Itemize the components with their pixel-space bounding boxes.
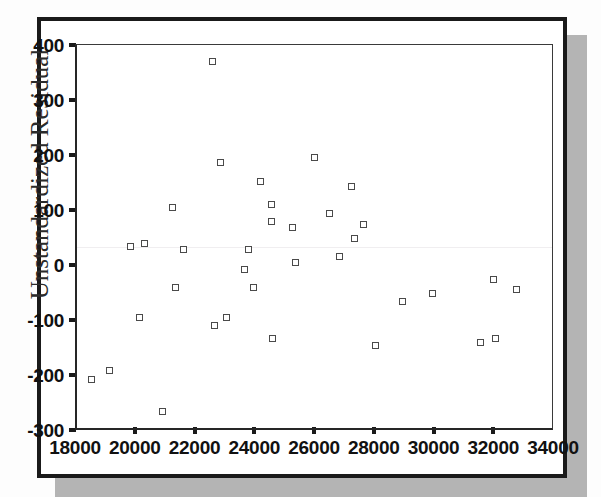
scatter-point xyxy=(88,376,95,383)
scatter-point xyxy=(209,58,216,65)
scatter-point xyxy=(257,178,264,185)
scatter-point xyxy=(326,210,333,217)
scatter-point xyxy=(513,286,520,293)
scatter-point xyxy=(245,246,252,253)
scatter-point xyxy=(223,314,230,321)
scatter-point xyxy=(211,322,218,329)
scatter-point xyxy=(372,342,379,349)
x-axis-tick-label: 34000 xyxy=(508,438,598,457)
scatter-point xyxy=(311,154,318,161)
scatter-plot-area xyxy=(77,45,552,428)
scatter-point xyxy=(217,159,224,166)
y-axis-tick-label: -200 xyxy=(8,366,64,385)
scatter-point xyxy=(289,224,296,231)
scatter-point xyxy=(490,276,497,283)
y-axis-tick-label: 400 xyxy=(8,36,64,55)
scatter-point xyxy=(492,335,499,342)
scatter-point xyxy=(292,259,299,266)
y-axis-title: Unstandardized Residual xyxy=(26,24,54,324)
scatter-point xyxy=(268,218,275,225)
scatter-point xyxy=(172,284,179,291)
scatter-point xyxy=(159,408,166,415)
plot-area-frame xyxy=(75,44,553,430)
figure-canvas: Unstandardized Residual 4003002001000-10… xyxy=(0,0,601,497)
scatter-point xyxy=(351,235,358,242)
y-axis-tick-label: 200 xyxy=(8,146,64,165)
figure-shadow-bottom xyxy=(55,478,587,497)
scatter-point xyxy=(269,335,276,342)
scatter-point xyxy=(106,367,113,374)
scatter-point xyxy=(169,204,176,211)
scatter-point xyxy=(348,183,355,190)
scatter-point xyxy=(241,266,248,273)
y-axis-tick-label: -100 xyxy=(8,311,64,330)
scatter-point xyxy=(180,246,187,253)
scatter-point xyxy=(429,290,436,297)
scatter-point xyxy=(360,221,367,228)
y-axis-tick-label: 300 xyxy=(8,91,64,110)
scatter-point xyxy=(250,284,257,291)
y-axis-tick-label: 100 xyxy=(8,201,64,220)
scatter-point xyxy=(136,314,143,321)
figure-shadow-right xyxy=(567,35,587,497)
scatter-point xyxy=(336,253,343,260)
scatter-point xyxy=(127,243,134,250)
horizontal-guide-line xyxy=(77,247,552,248)
scatter-point xyxy=(399,298,406,305)
scatter-point xyxy=(141,240,148,247)
scatter-point xyxy=(268,201,275,208)
scatter-point xyxy=(477,339,484,346)
y-axis-tick-label: 0 xyxy=(8,256,64,275)
